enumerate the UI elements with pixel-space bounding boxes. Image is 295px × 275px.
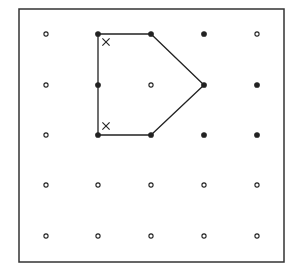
grid-peg-r4-c4 [255,234,259,238]
grid-peg-r0-c2 [149,32,154,37]
mark-layer [102,38,109,129]
grid-peg-r1-c3 [202,83,207,88]
grid-peg-r2-c1 [96,133,101,138]
geoboard-diagram [0,0,295,275]
grid-peg-r2-c3 [202,133,207,138]
grid-peg-r1-c2 [149,83,153,87]
grid-peg-r1-c4 [255,83,260,88]
right-angle-mark-bottom [102,122,109,129]
grid-peg-r3-c3 [202,183,206,187]
grid-peg-r0-c4 [255,32,259,36]
grid-peg-r4-c2 [149,234,153,238]
grid-peg-r0-c3 [202,32,207,37]
grid-peg-r2-c0 [44,133,48,137]
grid-peg-r2-c2 [149,133,154,138]
grid-peg-r3-c1 [96,183,100,187]
grid-peg-r1-c1 [96,83,101,88]
grid-peg-r3-c4 [255,183,259,187]
grid-peg-r4-c1 [96,234,100,238]
grid-peg-r0-c1 [96,32,101,37]
right-angle-mark-top [102,38,109,45]
dot-layer [44,32,259,238]
grid-peg-r3-c2 [149,183,153,187]
grid-peg-r3-c0 [44,183,48,187]
grid-peg-r2-c4 [255,133,260,138]
grid-peg-r1-c0 [44,83,48,87]
grid-peg-r4-c0 [44,234,48,238]
grid-peg-r0-c0 [44,32,48,36]
grid-peg-r4-c3 [202,234,206,238]
